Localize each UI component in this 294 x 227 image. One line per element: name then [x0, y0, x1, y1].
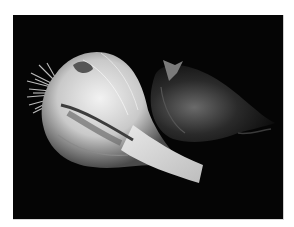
garlic-illustration	[13, 15, 283, 219]
garlic-photo	[13, 15, 284, 220]
garlic-clove-dark	[151, 60, 275, 142]
